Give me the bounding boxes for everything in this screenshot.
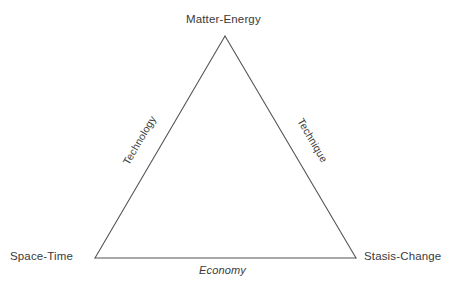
triangle-edge-right xyxy=(225,36,356,258)
diagram-canvas: Matter-Energy Space-Time Stasis-Change T… xyxy=(0,0,451,297)
vertex-label-matter-energy: Matter-Energy xyxy=(186,14,261,26)
vertex-label-space-time: Space-Time xyxy=(10,251,73,263)
triangle-edge-left xyxy=(95,36,225,258)
vertex-label-stasis-change: Stasis-Change xyxy=(364,251,441,263)
edge-label-economy: Economy xyxy=(199,265,246,276)
